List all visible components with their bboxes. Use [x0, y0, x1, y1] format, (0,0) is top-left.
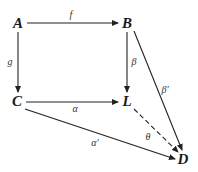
node-l: L	[122, 94, 131, 109]
label-f: f	[70, 10, 73, 20]
label-beta: β	[132, 57, 137, 67]
label-beta-prime: β′	[161, 85, 168, 95]
label-theta: θ	[146, 132, 151, 142]
node-c: C	[12, 94, 22, 109]
commutative-diagram: A B C L D f g β β′ α α′ θ	[0, 0, 198, 172]
node-a: A	[13, 16, 23, 31]
label-alpha-prime: α′	[91, 138, 98, 148]
node-b: B	[122, 16, 132, 31]
label-alpha: α	[72, 104, 77, 114]
label-g: g	[8, 57, 13, 67]
arrow-theta	[134, 109, 178, 152]
arrow-alpha-prime	[25, 109, 175, 159]
node-d: D	[178, 152, 189, 167]
